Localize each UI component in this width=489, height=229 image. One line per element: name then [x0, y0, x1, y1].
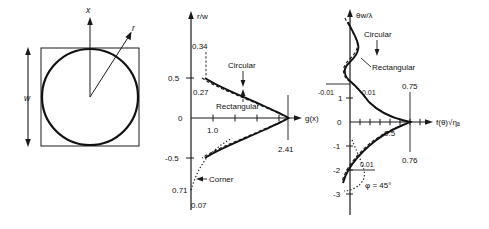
middle-x-axis-label: g(x)	[305, 114, 319, 123]
middle-value-034: 0.34	[192, 42, 208, 51]
middle-x-axis-arrowhead	[294, 115, 302, 121]
right-ytick-label-n3: -3	[333, 190, 341, 199]
right-callout-rectangular-leader	[361, 58, 371, 67]
w-dimension-label: w	[24, 93, 31, 103]
middle-callout-corner: Corner	[209, 175, 234, 184]
middle-y-axis-arrowhead	[188, 11, 194, 19]
right-ytick-label-0: 0	[337, 118, 342, 127]
middle-callout-rectangular: Rectangular	[216, 102, 259, 111]
right-value-neg001: -0.01	[318, 89, 334, 96]
middle-value-027: 0.27	[193, 88, 209, 97]
r-radial-label: r	[132, 23, 136, 33]
right-ytick-label-n2: -2	[333, 166, 341, 175]
middle-xtick-label-10: 1.0	[207, 126, 219, 135]
middle-ytick-label-05p: 0.5	[168, 74, 180, 83]
x-axis-label: x	[85, 5, 91, 15]
middle-peak-value-label: 2.41	[278, 145, 294, 154]
middle-callout-circular-arrowhead	[241, 80, 246, 87]
r-radial-arrowhead	[125, 32, 131, 41]
right-x-axis-label: f(θ)√ηₐ	[436, 118, 461, 127]
middle-callout-corner-arrowhead	[196, 177, 203, 182]
x-axis-arrowhead	[87, 17, 93, 25]
right-curve-circular	[343, 22, 410, 183]
right-curve-rectangular	[342, 18, 411, 182]
right-ytick-label-n1: -1	[333, 142, 341, 151]
panel-radial-field-distribution: r/w g(x) 0.5 0 -0.5 1.0 2.41 0.34 0.27	[165, 11, 319, 210]
right-callout-rectangular: Rectangular	[372, 63, 415, 72]
panel-waveguide-cross-section: x r w	[24, 5, 139, 147]
figure-svg: x r w r/w g(x) 0.5 0 -0.5 1.0 2.	[0, 0, 489, 229]
right-value-lower001: 0.01	[360, 161, 374, 168]
right-value-075: 0.75	[402, 82, 418, 91]
middle-callout-circular: Circular	[228, 61, 256, 70]
middle-ytick-label-0: 0	[178, 114, 183, 123]
panel-far-field-pattern: θw/λ f(θ)√ηₐ 1 0 -1 -2 -3 0.5 0.75 0.76 …	[318, 9, 461, 215]
right-ytick-label-1: 1	[338, 94, 343, 103]
right-callout-phi45: φ = 45°	[365, 181, 391, 190]
right-callout-circular: Circular	[364, 30, 392, 39]
w-dimension-arrowhead-bottom	[25, 139, 31, 147]
middle-y-axis-label: r/w	[197, 12, 208, 21]
right-x-axis-arrowhead	[425, 119, 433, 125]
right-y-axis-label: θw/λ	[356, 11, 372, 20]
figure-container: x r w r/w g(x) 0.5 0 -0.5 1.0 2.	[0, 0, 489, 229]
w-dimension-arrowhead-top	[25, 47, 31, 55]
middle-ytick-label-05n: -0.5	[165, 154, 179, 163]
right-y-axis-arrowhead	[347, 9, 353, 17]
middle-value-071: 0.71	[172, 186, 188, 195]
middle-callout-rectangular-arrowhead	[241, 89, 246, 96]
r-radial-line	[90, 36, 129, 97]
right-value-076: 0.76	[402, 156, 418, 165]
right-callout-circular-arrowhead	[375, 49, 380, 56]
middle-value-007: 0.07	[191, 201, 207, 210]
